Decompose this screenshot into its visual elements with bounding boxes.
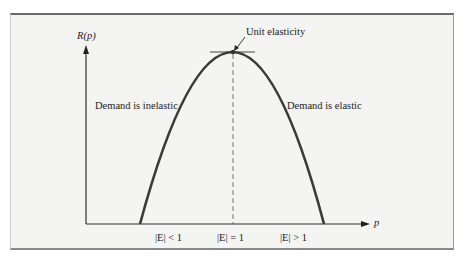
x-axis-label: p xyxy=(374,217,379,228)
y-axis-label: R(p) xyxy=(77,30,96,41)
tick-label-unit: |E| = 1 xyxy=(217,232,244,243)
elastic-label: Demand is elastic xyxy=(287,100,362,111)
revenue-curve xyxy=(140,52,324,224)
tick-label-elastic: |E| > 1 xyxy=(280,232,307,243)
tick-label-inelastic: |E| < 1 xyxy=(155,232,182,243)
inelastic-label: Demand is inelastic xyxy=(95,100,178,111)
y-axis-arrow-icon xyxy=(83,45,89,54)
revenue-diagram xyxy=(0,0,467,265)
x-axis-arrow-icon xyxy=(361,221,370,227)
unit-elasticity-label: Unit elasticity xyxy=(246,26,305,37)
